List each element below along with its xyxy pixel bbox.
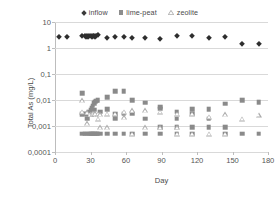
- legend-item-lime-peat: lime-peat: [119, 8, 157, 17]
- triangle-inner: [98, 113, 102, 116]
- y-axis-tick-mark: [52, 126, 55, 127]
- data-point-lime-peat: [207, 125, 212, 130]
- gridline-y: [55, 22, 268, 23]
- triangle-inner: [143, 109, 147, 112]
- triangle-inner: [223, 113, 227, 116]
- triangle-inner: [190, 113, 194, 116]
- triangle-inner: [223, 133, 227, 136]
- data-point-lime-peat: [121, 89, 126, 94]
- data-point-zeolite: [174, 131, 180, 136]
- data-point-zeolite: [142, 108, 148, 113]
- data-point-zeolite: [222, 112, 228, 117]
- data-point-zeolite: [239, 116, 245, 121]
- x-axis-title: Day: [55, 176, 268, 185]
- data-point-lime-peat: [223, 125, 228, 130]
- triangle-inner: [207, 116, 211, 119]
- triangle-inner: [207, 133, 211, 136]
- data-point-lime-peat: [98, 132, 103, 137]
- triangle-inner: [130, 109, 134, 112]
- triangle-inner: [98, 126, 102, 129]
- triangle-inner: [113, 113, 117, 116]
- x-axis-tick-mark: [55, 152, 56, 155]
- data-point-zeolite: [79, 98, 85, 103]
- x-axis-tick-label: 0: [53, 156, 57, 165]
- data-point-zeolite: [222, 131, 228, 136]
- legend-item-inflow: inflow: [82, 8, 108, 17]
- data-point-zeolite: [84, 121, 90, 126]
- y-axis-tick-label: 0,0001: [28, 148, 51, 157]
- chart-legend: inflow lime-peat zeolite: [0, 8, 280, 17]
- data-point-zeolite: [121, 115, 127, 120]
- data-point-lime-peat: [207, 107, 212, 112]
- triangle-inner: [240, 118, 244, 121]
- data-point-lime-peat: [223, 101, 228, 106]
- data-point-zeolite: [97, 112, 103, 117]
- data-point-inflow: [104, 35, 110, 41]
- data-point-lime-peat: [175, 116, 180, 121]
- data-point-zeolite: [129, 108, 135, 113]
- legend-label-zeolite: zeolite: [177, 8, 198, 17]
- data-point-inflow: [142, 35, 148, 41]
- triangle-inner: [175, 113, 179, 116]
- data-point-lime-peat: [113, 132, 118, 137]
- data-point-zeolite: [256, 112, 262, 117]
- data-point-inflow: [222, 34, 228, 40]
- x-axis-tick-label: 180: [262, 156, 275, 165]
- square-icon: [119, 10, 124, 15]
- data-point-lime-peat: [240, 98, 245, 103]
- gridline-y: [55, 100, 268, 101]
- data-point-zeolite: [206, 114, 212, 119]
- data-point-lime-peat: [240, 132, 245, 137]
- data-point-zeolite: [95, 116, 101, 121]
- triangle-inner: [175, 133, 179, 136]
- data-point-lime-peat: [130, 98, 135, 103]
- data-point-inflow: [206, 35, 212, 41]
- x-axis-tick-label: 90: [157, 156, 165, 165]
- triangle-inner: [256, 114, 260, 117]
- data-point-lime-peat: [158, 132, 163, 137]
- y-axis-tick-label: 10: [43, 18, 51, 27]
- data-point-zeolite: [189, 111, 195, 116]
- data-point-lime-peat: [190, 125, 195, 130]
- triangle-inner: [105, 126, 109, 129]
- data-point-inflow: [129, 35, 135, 41]
- data-point-lime-peat: [80, 91, 85, 96]
- data-point-lime-peat: [121, 132, 126, 137]
- triangle-inner: [122, 116, 126, 119]
- data-point-zeolite: [112, 111, 118, 116]
- x-axis-tick-mark: [126, 152, 127, 155]
- data-point-zeolite: [174, 125, 180, 130]
- x-axis-tick-mark: [268, 152, 269, 155]
- y-axis-tick-label: 1: [47, 44, 51, 53]
- data-point-zeolite: [157, 125, 163, 130]
- data-point-zeolite: [206, 131, 212, 136]
- gridline-y: [55, 48, 268, 49]
- y-axis-tick-mark: [52, 22, 55, 23]
- legend-label-lime-peat: lime-peat: [126, 8, 156, 17]
- y-axis-tick-mark: [52, 100, 55, 101]
- triangle-inner: [158, 126, 162, 129]
- x-axis-tick-label: 30: [86, 156, 94, 165]
- data-point-lime-peat: [105, 132, 110, 137]
- triangle-inner: [105, 113, 109, 116]
- data-point-lime-peat: [143, 132, 148, 137]
- data-point-inflow: [56, 34, 62, 40]
- data-point-lime-peat: [113, 116, 118, 121]
- data-point-inflow: [112, 34, 118, 40]
- triangle-inner: [143, 126, 147, 129]
- data-point-inflow: [256, 41, 262, 47]
- data-point-inflow: [64, 34, 70, 40]
- data-point-inflow: [189, 33, 195, 39]
- triangle-inner: [80, 99, 84, 102]
- triangle-inner: [85, 122, 89, 125]
- data-point-zeolite: [121, 109, 127, 114]
- triangle-inner: [158, 111, 162, 114]
- data-point-lime-peat: [105, 95, 110, 100]
- data-point-lime-peat: [256, 100, 261, 105]
- data-point-lime-peat: [113, 89, 118, 94]
- triangle-inner: [190, 133, 194, 136]
- gridline-y: [55, 74, 268, 75]
- triangle-inner: [175, 126, 179, 129]
- y-axis-tick-label: 0,001: [32, 122, 51, 131]
- data-point-zeolite: [189, 131, 195, 136]
